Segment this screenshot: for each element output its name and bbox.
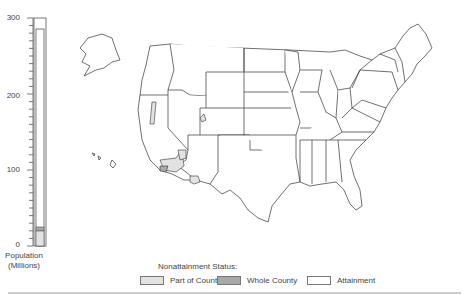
population-chart-and-map (0, 0, 463, 295)
swatch-part-of-county (140, 276, 164, 285)
bottom-divider (8, 292, 461, 294)
population-axis-title: Population (Millions) (2, 251, 46, 271)
hawaii-outline (92, 153, 116, 168)
y-axis (27, 18, 33, 246)
legend-label: Whole County (247, 276, 297, 285)
bar-whole-county (36, 227, 44, 231)
alaska-outline (80, 34, 120, 76)
area-phoenix (190, 176, 200, 184)
legend-label: Attainment (337, 276, 375, 285)
bar-attainment (36, 29, 44, 246)
bar-part-of-county (36, 231, 44, 246)
swatch-attainment (307, 276, 331, 285)
legend-label: Part of County (170, 276, 221, 285)
legend-item-attainment: Attainment (307, 276, 375, 285)
caption-line2: (Millions) (2, 261, 46, 271)
legend-item-whole-county: Whole County (217, 276, 297, 285)
swatch-whole-county (217, 276, 241, 285)
us-map (138, 24, 432, 222)
legend-item-part-of-county: Part of County (140, 276, 221, 285)
caption-line1: Population (2, 251, 46, 261)
legend-title: Nonattainment Status: (158, 262, 237, 271)
